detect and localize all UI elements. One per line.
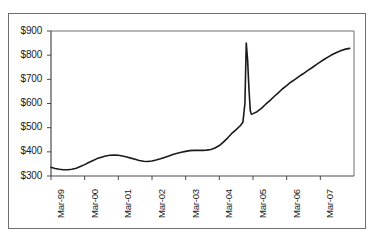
chart-container: $300$400$500$600$700$800$900 Mar-99Mar-0… [0,0,374,237]
y-axis-tick-label: $600 [6,97,42,108]
x-axis-tick-label: Mar-04 [223,189,234,218]
x-axis-tick-label: Mar-00 [89,189,100,218]
x-axis-tick-marks [51,176,320,180]
plot-frame [51,31,354,176]
x-axis-tick-label: Mar-06 [291,189,302,218]
y-axis-tick-label: $400 [6,145,42,156]
x-axis-tick-label: Mar-02 [156,189,167,218]
y-axis-tick-label: $300 [6,170,42,181]
x-axis-tick-label: Mar-03 [190,189,201,218]
data-series-line [51,43,350,170]
x-axis-tick-label: Mar-07 [324,189,335,218]
y-axis-tick-label: $800 [6,49,42,60]
x-axis-tick-label: Mar-01 [122,189,133,218]
y-axis-tick-label: $500 [6,121,42,132]
x-axis-tick-label: Mar-99 [55,189,66,218]
y-axis-tick-label: $900 [6,25,42,36]
y-axis-tick-label: $700 [6,73,42,84]
x-axis-tick-label: Mar-05 [257,189,268,218]
